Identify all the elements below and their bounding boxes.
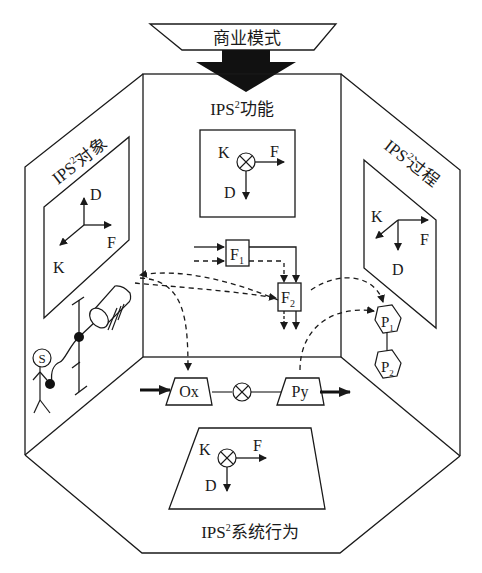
svg-text:K: K: [199, 441, 211, 458]
business-model-block: 商业模式: [150, 24, 336, 50]
svg-text:F: F: [107, 234, 116, 251]
function-wall-title: IPS2功能: [210, 99, 274, 119]
process-network: P1 P2: [375, 305, 401, 378]
transformation-flow: Ox Py: [140, 378, 350, 405]
svg-text:D: D: [392, 261, 404, 278]
svg-text:K: K: [371, 208, 383, 225]
dashed-relations: [135, 273, 383, 370]
svg-text:K: K: [53, 259, 65, 276]
stakeholder-label: S: [38, 351, 45, 366]
joint-dot-icon: [74, 332, 84, 342]
ips2-diagram: 商业模式 IPS2功能 K F D F1: [0, 0, 482, 573]
svg-text:F: F: [253, 437, 262, 454]
equipment-rack-icon: [52, 297, 95, 395]
svg-text:D: D: [90, 186, 102, 203]
behavior-axes-panel: K F D: [169, 428, 325, 509]
behavior-floor-title: IPS2系统行为: [201, 522, 299, 542]
joint-dot-icon: [45, 379, 55, 389]
output-py-label: Py: [292, 383, 309, 401]
function-network: F1 F2: [194, 240, 301, 329]
big-down-arrow-icon: [196, 50, 296, 92]
svg-text:F: F: [270, 143, 279, 160]
function-axes-panel: K F D: [200, 130, 295, 217]
svg-text:D: D: [205, 477, 217, 494]
svg-text:D: D: [224, 184, 236, 201]
input-ox-label: Ox: [179, 383, 199, 400]
svg-text:F: F: [420, 231, 429, 248]
svg-text:K: K: [218, 144, 230, 161]
business-model-label: 商业模式: [213, 28, 281, 48]
